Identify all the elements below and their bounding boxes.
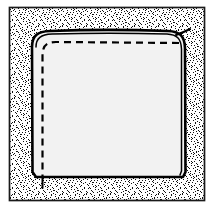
illustration-root: Stippled-ground line drawing of a rounde… [0,0,213,214]
illustration-canvas [0,0,213,214]
rounded-square-panel-fill [32,31,185,177]
